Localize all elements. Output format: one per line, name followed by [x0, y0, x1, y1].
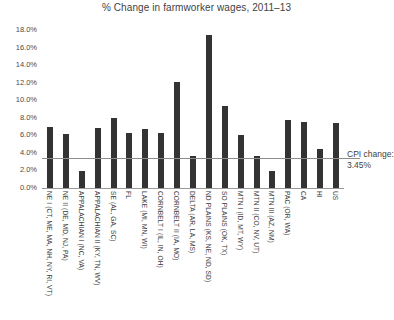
y-axis-tick-label: 12.0% — [16, 79, 37, 87]
x-axis-category-label: NE II (DE, MD, NJ, PA) — [61, 191, 69, 261]
x-axis-category-label: LAKE (MI, MN, WI) — [140, 191, 148, 249]
bar — [63, 134, 69, 188]
bar — [333, 123, 339, 188]
y-axis-tick-label: 10.0% — [16, 96, 37, 104]
y-axis-tick-label: 8.0% — [20, 114, 37, 122]
x-axis-category-label: CORNBELT II (IA, MO) — [172, 191, 180, 261]
x-axis-category-label: DELTA (AR, LA, MS) — [188, 191, 196, 253]
y-axis-tick-label: 0.0% — [20, 184, 37, 192]
x-axis-category-label: PAC (OR, WA) — [283, 191, 291, 235]
x-axis-category-label: APPALACHIAN I (NC, VA) — [77, 191, 85, 270]
bar — [301, 122, 307, 188]
y-axis-tick-label: 6.0% — [20, 132, 37, 140]
y-axis-tick-label: 2.0% — [20, 167, 37, 175]
cpi-reference-line — [42, 158, 360, 159]
y-axis-tick-label: 18.0% — [16, 26, 37, 34]
x-axis-category-label: HI — [315, 191, 323, 198]
chart-title: % Change in farmworker wages, 2011–13 — [0, 2, 393, 13]
x-axis-category-label: FL — [124, 191, 132, 199]
x-axis-category-label: MTN III (AZ, NM) — [267, 191, 275, 243]
x-axis-category-label: SO PLAINS (OK, TX) — [220, 191, 228, 255]
cpi-annotation-value: 3.45% — [347, 160, 394, 171]
bar — [174, 82, 180, 188]
bar — [126, 133, 132, 188]
y-axis: 18.0%16.0%14.0%12.0%10.0%8.0%6.0%4.0%2.0… — [0, 30, 40, 188]
x-axis-category-label: NE I (CT, ME, MA, NH, NY, RI, VT) — [45, 191, 53, 296]
y-axis-tick-label: 4.0% — [20, 149, 37, 157]
bar — [317, 149, 323, 189]
x-axis-category-label: CA — [299, 191, 307, 200]
cpi-annotation-label: CPI change: — [347, 149, 394, 160]
bar — [269, 171, 275, 188]
x-axis-category-label: APPALACHIAN II (KY, TN, WV) — [93, 191, 101, 286]
x-axis-category-label: CORNBELT I (IL, IN, OH) — [156, 191, 164, 268]
bar — [285, 120, 291, 188]
y-axis-tick-label: 16.0% — [16, 44, 37, 52]
x-axis-labels: NE I (CT, ME, MA, NH, NY, RI, VT)NE II (… — [42, 191, 344, 319]
bar — [79, 171, 85, 188]
x-axis-category-label: ND PLAINS (KS, NE, ND, SD) — [204, 191, 212, 282]
plot-area — [42, 30, 344, 188]
x-axis-category-label: MTN I (ID, MT, WY) — [236, 191, 244, 250]
bar — [206, 35, 212, 188]
bar — [158, 133, 164, 188]
bar — [254, 156, 260, 188]
x-axis-baseline — [42, 188, 344, 189]
bar — [190, 156, 196, 188]
x-axis-category-label: SE (AL, GA, SC) — [109, 191, 117, 242]
cpi-annotation: CPI change: 3.45% — [347, 149, 394, 171]
y-axis-tick-label: 14.0% — [16, 61, 37, 69]
bar — [111, 118, 117, 188]
x-axis-category-label: MTN II (CO, NV, UT) — [252, 191, 260, 253]
bar — [222, 106, 228, 188]
bar — [238, 135, 244, 188]
x-axis-category-label: US — [331, 191, 339, 200]
